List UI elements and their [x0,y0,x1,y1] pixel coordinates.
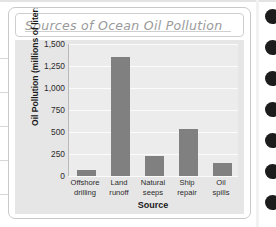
binding-hole [265,71,276,86]
y-tick-label: 1,000 [31,83,65,93]
x-tick-label: Oilspills [204,178,238,197]
title-underline [25,31,231,32]
notebook-page: Sources of Ocean Oil Pollution Oil Pollu… [0,0,276,227]
x-tick-label: Naturalseeps [136,178,170,197]
binding-spine [256,0,259,227]
bar [77,170,96,176]
bar [179,129,198,176]
bar [213,163,232,176]
x-axis-label: Source [68,200,238,210]
binding-hole [265,40,276,55]
x-tick-label: Shiprepair [170,178,204,197]
binding-hole [265,133,276,148]
y-axis-ticks: 02505007501,0001,2501,500 [31,44,65,176]
gridline [69,154,238,155]
x-axis-tick-labels: OffshoredrillingLandrunoffNaturalseepsSh… [68,178,238,200]
spiral-binding [256,0,276,227]
title-box: Sources of Ocean Oil Pollution [15,13,244,37]
page-top-edge [0,0,276,2]
y-tick-label: 250 [31,149,65,159]
bar [145,156,164,176]
y-tick-label: 1,250 [31,61,65,71]
bar-chart: Oil Pollution (millions of liters) 02505… [15,40,244,214]
binding-hole [265,195,276,210]
binding-hole [265,102,276,117]
y-tick-label: 500 [31,127,65,137]
binding-hole [265,164,276,179]
chart-card: Sources of Ocean Oil Pollution Oil Pollu… [8,7,251,219]
y-tick-label: 750 [31,105,65,115]
bar [111,57,130,176]
gridline [69,110,238,111]
gridline [69,88,238,89]
gridline [69,66,238,67]
gridline [69,132,238,133]
x-tick-label: Offshoredrilling [68,178,102,197]
binding-hole [265,9,276,24]
y-tick-label: 0 [31,171,65,181]
gridline [69,44,238,45]
plot-area [68,44,238,176]
y-tick-label: 1,500 [31,39,65,49]
x-tick-label: Landrunoff [102,178,136,197]
